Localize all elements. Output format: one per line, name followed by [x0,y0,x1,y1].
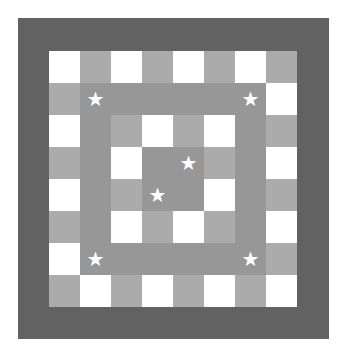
board-cell[interactable] [49,243,80,275]
board-cell[interactable] [266,51,297,83]
board-cell[interactable] [111,83,142,115]
board-cell[interactable] [266,211,297,243]
board-cell[interactable] [173,83,204,115]
board-cell[interactable]: ★ [80,83,111,115]
star-icon: ★ [180,153,198,173]
board-cell[interactable] [204,115,235,147]
board-cell[interactable] [266,115,297,147]
board-cell[interactable] [49,51,80,83]
star-icon: ★ [87,249,105,269]
board-cell[interactable] [49,275,80,307]
board-cell[interactable] [173,275,204,307]
board-cell[interactable] [204,275,235,307]
board-cell[interactable] [266,275,297,307]
board-cell[interactable] [80,115,111,147]
board-cell[interactable] [204,147,235,179]
board-cell[interactable] [204,243,235,275]
board-cell[interactable] [173,115,204,147]
board-cell[interactable] [266,147,297,179]
board-cell[interactable] [49,179,80,211]
board-cell[interactable] [235,147,266,179]
board-cell[interactable] [235,115,266,147]
board-frame: ★★★★★★ [18,18,329,339]
board-cell[interactable] [142,51,173,83]
board-cell[interactable] [111,211,142,243]
star-icon: ★ [149,185,167,205]
board-cell[interactable] [266,179,297,211]
board-cell[interactable] [111,147,142,179]
board-cell[interactable] [111,179,142,211]
board-cell[interactable] [266,83,297,115]
board-cell[interactable] [111,51,142,83]
board-cell[interactable] [235,275,266,307]
board-cell[interactable] [204,179,235,211]
board-cell[interactable] [142,275,173,307]
board-cell[interactable] [142,243,173,275]
board-cell[interactable] [204,51,235,83]
star-icon: ★ [242,249,260,269]
board-cell[interactable] [80,51,111,83]
board-cell[interactable]: ★ [80,243,111,275]
board-cell[interactable] [173,179,204,211]
board-cell[interactable] [235,211,266,243]
board-cell[interactable] [80,147,111,179]
board-cell[interactable] [111,115,142,147]
board-cell[interactable] [173,211,204,243]
board-cell[interactable] [204,211,235,243]
board-cell[interactable] [49,147,80,179]
star-icon: ★ [242,89,260,109]
board-cell[interactable] [111,275,142,307]
board-cell[interactable] [80,179,111,211]
board-cell[interactable] [235,179,266,211]
star-icon: ★ [87,89,105,109]
board-cell[interactable]: ★ [235,243,266,275]
board-cell[interactable] [142,83,173,115]
board-cell[interactable] [235,51,266,83]
board-cell[interactable] [49,211,80,243]
board-cell[interactable] [111,243,142,275]
board-cell[interactable] [204,83,235,115]
board-cell[interactable] [80,211,111,243]
board-cell[interactable]: ★ [235,83,266,115]
board-cell[interactable] [142,115,173,147]
board-grid: ★★★★★★ [49,51,297,307]
board-cell[interactable] [173,51,204,83]
board-cell[interactable]: ★ [142,179,173,211]
board-cell[interactable] [49,115,80,147]
board-cell[interactable] [266,243,297,275]
board-cell[interactable]: ★ [173,147,204,179]
board-cell[interactable] [80,275,111,307]
board-cell[interactable] [173,243,204,275]
board-cell[interactable] [142,147,173,179]
board-cell[interactable] [142,211,173,243]
board-cell[interactable] [49,83,80,115]
